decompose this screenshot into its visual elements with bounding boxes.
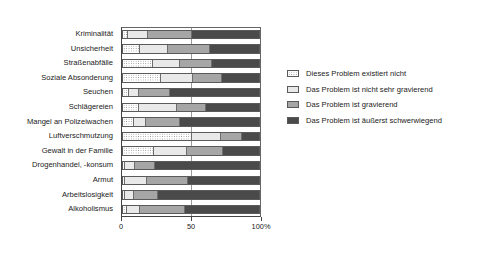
bar-segment xyxy=(176,104,205,111)
legend-item-label: Das Problem ist äußerst schwerwiegend xyxy=(306,116,442,125)
stacked-bar[interactable] xyxy=(122,73,260,82)
bar-segment xyxy=(123,133,191,140)
y-axis-label: Arbeitslosigkeit xyxy=(0,188,118,203)
stacked-bar[interactable] xyxy=(122,190,260,199)
x-tick-100 xyxy=(261,217,262,221)
x-axis: 0 50 100% xyxy=(121,217,261,218)
bar-row xyxy=(122,86,260,101)
bar-segment xyxy=(154,162,259,169)
bar-segment xyxy=(123,60,152,67)
bar-row xyxy=(122,159,260,174)
stacked-bar[interactable] xyxy=(122,59,260,68)
y-axis-label: Luftverschmutzung xyxy=(0,129,118,144)
legend-item-label: Das Problem ist nicht sehr gravierend xyxy=(306,85,433,94)
bar-segment xyxy=(128,89,138,96)
stacked-bar[interactable] xyxy=(122,132,260,141)
plot-area xyxy=(121,27,261,217)
bar-segment xyxy=(160,74,193,81)
bar-segment xyxy=(126,206,140,213)
y-axis-label: Soziale Absonderung xyxy=(0,71,118,86)
bar-row xyxy=(122,130,260,145)
bar-segment xyxy=(153,147,186,154)
bar-segment xyxy=(127,31,147,38)
bar-segment xyxy=(139,45,166,52)
bar-segment xyxy=(211,60,259,67)
bar-segment xyxy=(184,206,259,213)
y-axis-label: Alkoholismus xyxy=(0,202,118,217)
legend-item-label: Dieses Problem existiert nicht xyxy=(306,69,406,78)
bar-segment xyxy=(123,45,139,52)
bar-segment xyxy=(123,147,153,154)
bar-segment xyxy=(186,147,223,154)
stacked-bar[interactable] xyxy=(122,117,260,126)
bar-row xyxy=(122,43,260,58)
bar-row xyxy=(122,101,260,116)
bar-segment xyxy=(191,133,220,140)
y-axis-label: Straßenabfälle xyxy=(0,56,118,71)
bar-row xyxy=(122,203,260,218)
y-axis-label: Kriminalität xyxy=(0,27,118,42)
stacked-bar[interactable] xyxy=(122,44,260,53)
stacked-bar-chart: KriminalitätUnsicherheitStraßenabfälleSo… xyxy=(0,0,477,253)
bar-row xyxy=(122,28,260,43)
stacked-bar[interactable] xyxy=(122,30,260,39)
legend-swatch-icon xyxy=(287,101,299,108)
legend-swatch-icon xyxy=(287,117,299,124)
bar-segment xyxy=(124,162,134,169)
chart-plot-wrapper: KriminalitätUnsicherheitStraßenabfälleSo… xyxy=(0,0,477,253)
legend-swatch-icon xyxy=(287,70,299,77)
legend-item[interactable]: Dieses Problem existiert nicht xyxy=(287,66,472,82)
stacked-bar[interactable] xyxy=(122,161,260,170)
bar-segment xyxy=(169,89,259,96)
bar-segment xyxy=(167,45,209,52)
bar-segment xyxy=(179,60,212,67)
bar-segment xyxy=(138,89,169,96)
bar-segment xyxy=(221,74,259,81)
bar-segment xyxy=(157,191,259,198)
bar-segment xyxy=(209,45,259,52)
legend-item[interactable]: Das Problem ist gravierend xyxy=(287,97,472,113)
bar-segment xyxy=(192,74,221,81)
bar-row xyxy=(122,145,260,160)
bar-segment xyxy=(139,206,184,213)
legend-item[interactable]: Das Problem ist äußerst schwerwiegend xyxy=(287,113,472,129)
bar-segment xyxy=(138,104,176,111)
y-axis-label: Mangel an Polizeiwachen xyxy=(0,115,118,130)
y-axis-label: Gewalt in der Familie xyxy=(0,144,118,159)
bar-segment xyxy=(152,60,179,67)
bar-segment xyxy=(145,118,179,125)
legend-item-label: Das Problem ist gravierend xyxy=(306,100,398,109)
bar-segment xyxy=(220,133,242,140)
bar-segment xyxy=(146,177,187,184)
bar-segment xyxy=(134,162,154,169)
stacked-bar[interactable] xyxy=(122,205,260,214)
x-tick-label-100: 100% xyxy=(252,222,271,231)
bar-rows-container xyxy=(122,28,260,216)
y-axis-label: Drogenhandel, -konsum xyxy=(0,158,118,173)
bar-segment xyxy=(191,31,259,38)
bar-segment xyxy=(124,191,132,198)
y-axis-label: Seuchen xyxy=(0,85,118,100)
bar-row xyxy=(122,174,260,189)
stacked-bar[interactable] xyxy=(122,176,260,185)
legend-item[interactable]: Das Problem ist nicht sehr gravierend xyxy=(287,82,472,98)
bar-row xyxy=(122,189,260,204)
chart-legend: Dieses Problem existiert nichtDas Proble… xyxy=(287,66,472,128)
bar-segment xyxy=(124,177,146,184)
x-tick-label-50: 50 xyxy=(187,222,195,231)
y-axis-category-labels: KriminalitätUnsicherheitStraßenabfälleSo… xyxy=(0,27,118,217)
bar-segment xyxy=(222,147,259,154)
bar-segment xyxy=(123,74,160,81)
stacked-bar[interactable] xyxy=(122,88,260,97)
bar-row xyxy=(122,116,260,131)
bar-segment xyxy=(133,191,157,198)
bar-segment xyxy=(123,104,138,111)
bar-segment xyxy=(205,104,259,111)
bar-row xyxy=(122,57,260,72)
x-tick-0 xyxy=(121,217,122,221)
stacked-bar[interactable] xyxy=(122,146,260,155)
stacked-bar[interactable] xyxy=(122,103,260,112)
y-axis-label: Unsicherheit xyxy=(0,42,118,57)
legend-swatch-icon xyxy=(287,86,299,93)
bar-segment xyxy=(241,133,259,140)
